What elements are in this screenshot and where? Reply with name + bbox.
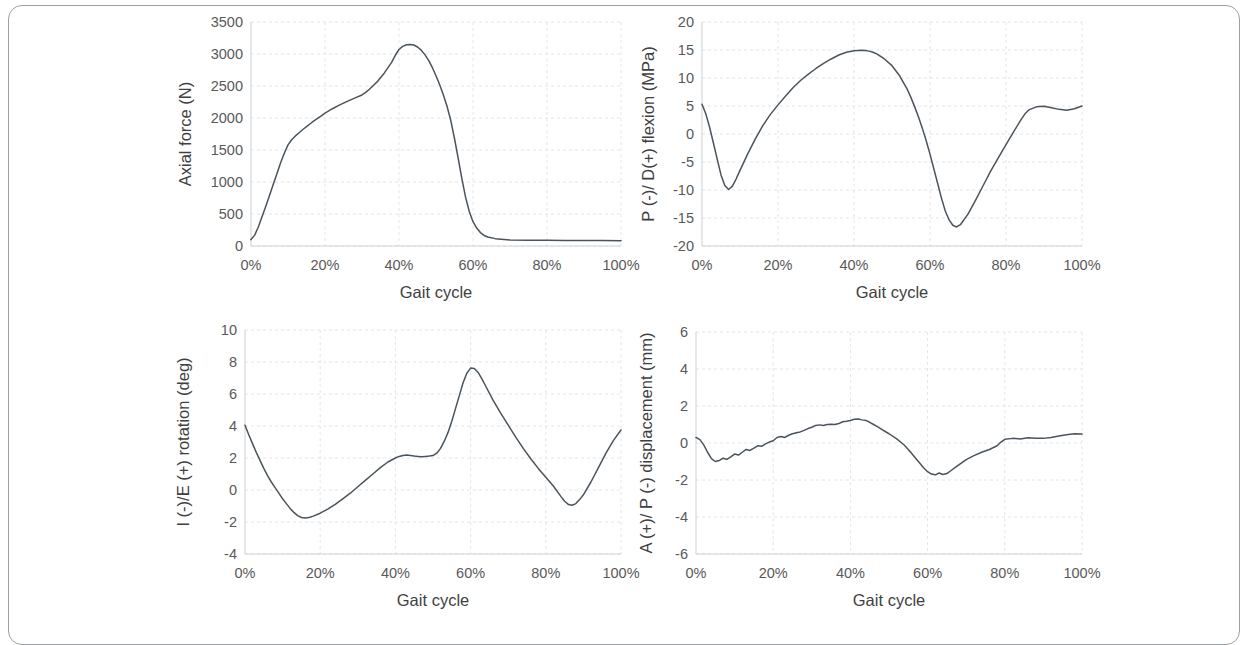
- x-axis-title: Gait cycle: [856, 283, 928, 301]
- y-axis-title: A (+)/ P (-) displacement (mm): [637, 332, 655, 553]
- y-tick-label: 15: [678, 42, 694, 58]
- x-axis-title: Gait cycle: [853, 591, 925, 609]
- y-tick-label: 2: [680, 398, 688, 414]
- y-tick-label: -5: [681, 154, 694, 170]
- y-tick-label: 10: [678, 70, 694, 86]
- y-tick-label: 2000: [211, 110, 243, 126]
- y-tick-label: 2: [229, 450, 237, 466]
- x-tick-label: 20%: [759, 565, 788, 581]
- y-tick-label: 1500: [211, 142, 243, 158]
- series-line: [251, 44, 621, 240]
- y-tick-label: 10: [221, 322, 237, 338]
- x-tick-label: 20%: [310, 257, 339, 273]
- y-tick-label: 6: [229, 386, 237, 402]
- x-tick-label: 80%: [991, 257, 1020, 273]
- x-tick-label: 40%: [836, 565, 865, 581]
- y-tick-label: 4: [680, 361, 688, 377]
- x-tick-label: 40%: [839, 257, 868, 273]
- y-tick-label: -4: [675, 509, 688, 525]
- y-tick-label: 2500: [211, 78, 243, 94]
- y-axis-title: I (-)/E (+) rotation (deg): [174, 357, 192, 526]
- plot-flexion-stress: -20-15-10-5051015200%20%40%60%80%100%Gai…: [640, 10, 1100, 310]
- x-tick-label: 0%: [241, 257, 262, 273]
- y-tick-label: 4: [229, 418, 237, 434]
- plot-ap-displacement: -6-4-202460%20%40%60%80%100%Gait cycleA …: [640, 318, 1100, 618]
- x-tick-label: 0%: [692, 257, 713, 273]
- y-tick-label: 0: [686, 126, 694, 142]
- y-tick-label: -2: [675, 472, 688, 488]
- series-line: [696, 419, 1082, 475]
- plot-rotation: -4-202468100%20%40%60%80%100%Gait cycleI…: [175, 318, 635, 618]
- y-axis-title: P (-)/ D(+) flexion (MPa): [639, 46, 657, 221]
- x-tick-label: 60%: [458, 257, 487, 273]
- x-tick-label: 20%: [763, 257, 792, 273]
- x-tick-label: 80%: [532, 257, 561, 273]
- x-tick-label: 100%: [602, 565, 639, 581]
- x-tick-label: 60%: [456, 565, 485, 581]
- y-tick-label: 5: [686, 98, 694, 114]
- x-tick-label: 20%: [306, 565, 335, 581]
- y-tick-label: 0: [235, 238, 243, 254]
- x-tick-label: 0%: [686, 565, 707, 581]
- x-tick-label: 100%: [1063, 257, 1100, 273]
- y-tick-label: -4: [224, 546, 237, 562]
- x-tick-label: 60%: [913, 565, 942, 581]
- chart-rotation: -4-202468100%20%40%60%80%100%Gait cycleI…: [175, 318, 635, 618]
- y-tick-label: 6: [680, 324, 688, 340]
- chart-axial-force: 05001000150020002500300035000%20%40%60%8…: [175, 10, 635, 310]
- x-tick-label: 80%: [531, 565, 560, 581]
- chart-flexion-stress: -20-15-10-5051015200%20%40%60%80%100%Gai…: [640, 10, 1100, 310]
- y-tick-label: 8: [229, 354, 237, 370]
- y-tick-label: 0: [229, 482, 237, 498]
- y-tick-label: -2: [224, 514, 237, 530]
- plot-axial-force: 05001000150020002500300035000%20%40%60%8…: [175, 10, 635, 310]
- x-tick-label: 40%: [384, 257, 413, 273]
- x-tick-label: 60%: [915, 257, 944, 273]
- x-tick-label: 80%: [990, 565, 1019, 581]
- x-axis-title: Gait cycle: [397, 591, 469, 609]
- y-tick-label: 20: [678, 14, 694, 30]
- x-axis-title: Gait cycle: [400, 283, 472, 301]
- y-tick-label: -6: [675, 546, 688, 562]
- y-tick-label: 0: [680, 435, 688, 451]
- y-tick-label: -20: [673, 238, 694, 254]
- y-tick-label: -15: [673, 210, 694, 226]
- y-tick-label: 3500: [211, 14, 243, 30]
- x-tick-label: 100%: [602, 257, 639, 273]
- series-line: [245, 368, 621, 518]
- x-tick-label: 40%: [381, 565, 410, 581]
- x-tick-label: 0%: [235, 565, 256, 581]
- y-tick-label: -10: [673, 182, 694, 198]
- series-line: [702, 50, 1082, 227]
- y-tick-label: 1000: [211, 174, 243, 190]
- y-axis-title: Axial force (N): [176, 82, 194, 187]
- chart-ap-displacement: -6-4-202460%20%40%60%80%100%Gait cycleA …: [640, 318, 1100, 618]
- x-tick-label: 100%: [1063, 565, 1100, 581]
- y-tick-label: 3000: [211, 46, 243, 62]
- y-tick-label: 500: [219, 206, 243, 222]
